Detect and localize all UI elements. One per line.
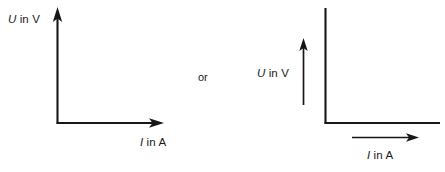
right-x-axis-connector: in bbox=[370, 149, 385, 161]
right-diagram-axes bbox=[325, 8, 441, 124]
left-y-axis-label: U in V bbox=[8, 13, 40, 25]
left-y-axis-connector: in bbox=[16, 13, 32, 25]
right-x-axis-unit: A bbox=[385, 149, 393, 161]
right-diagram-direction-arrows bbox=[299, 38, 419, 142]
right-y-axis-label: U in V bbox=[257, 67, 289, 79]
left-diagram-axes bbox=[53, 7, 164, 128]
left-y-axis-unit: V bbox=[32, 13, 40, 25]
right-y-axis-unit: V bbox=[281, 67, 289, 79]
left-x-axis-connector: in bbox=[143, 136, 158, 148]
left-x-axis-unit: A bbox=[158, 136, 166, 148]
right-y-axis-connector: in bbox=[265, 67, 281, 79]
or-connective-label: or bbox=[198, 71, 208, 83]
left-x-axis-label: I in A bbox=[140, 136, 166, 148]
diagram-vector-layer bbox=[0, 0, 445, 172]
right-x-axis-label: I in A bbox=[367, 149, 393, 161]
axis-labelling-figure: U in V I in A or U in V I in A bbox=[0, 0, 445, 172]
